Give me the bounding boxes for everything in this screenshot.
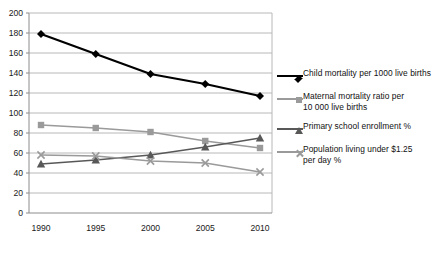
data-point-marker [257,145,263,151]
y-axis-labels: 020406080100120140160180200 [9,8,24,218]
legend-label-primary-school: Primary school enrollment % [303,121,411,132]
y-axis-tick-label: 140 [9,68,24,78]
x-axis-tick-label: 1990 [31,223,50,233]
series-line [41,34,260,96]
data-series [38,122,263,151]
x-axis-tick-label: 1995 [86,223,105,233]
x-axis-tick-label: 2000 [141,223,160,233]
data-series [37,134,264,168]
triangle-marker-icon [277,122,303,135]
data-point-marker [37,30,45,38]
data-point-marker [93,125,99,131]
gridlines [29,33,272,193]
y-axis-tick-label: 80 [13,128,23,138]
y-axis-tick-label: 60 [13,148,23,158]
legend-item-maternal-mortality[interactable]: Maternal mortality ratio per 10 000 live… [277,91,434,112]
y-axis-tick-label: 180 [9,28,24,38]
diamond-marker-icon [277,69,303,82]
legend-label-maternal-mortality: Maternal mortality ratio per 10 000 live… [303,91,404,112]
chart-container: 020406080100120140160180200 199019952000… [0,0,434,253]
square-marker-icon [277,92,303,105]
y-axis-tick-label: 160 [9,48,24,58]
legend-item-primary-school[interactable]: Primary school enrollment % [277,121,434,135]
series-line [41,125,260,148]
data-series [37,30,264,100]
data-point-marker [92,50,100,58]
x-axis-tick-label: 2010 [250,223,269,233]
y-axis-tick-label: 120 [9,88,24,98]
legend-item-population-poverty[interactable]: Population living under $1.25 per day % [277,144,434,165]
legend-label-population-poverty: Population living under $1.25 per day % [303,144,412,165]
x-axis-labels: 19901995200020052010 [31,223,269,233]
chart-legend: Child mortality per 1000 live births Mat… [277,68,434,174]
data-point-marker [38,122,44,128]
data-point-marker [147,129,153,135]
y-axis-tick-label: 0 [18,208,23,218]
data-point-marker [256,134,264,142]
data-point-marker [201,80,209,88]
y-axis-tick-label: 40 [13,168,23,178]
y-axis-tick-label: 200 [9,8,24,18]
legend-item-child-mortality[interactable]: Child mortality per 1000 live births [277,68,434,82]
data-series-layer [37,30,264,176]
cross-marker-icon [277,145,303,158]
y-axis-tick-label: 20 [13,188,23,198]
y-axis-tick-label: 100 [9,108,24,118]
data-point-marker [147,70,155,78]
legend-label-child-mortality: Child mortality per 1000 live births [303,68,431,79]
x-axis-tick-label: 2005 [196,223,215,233]
